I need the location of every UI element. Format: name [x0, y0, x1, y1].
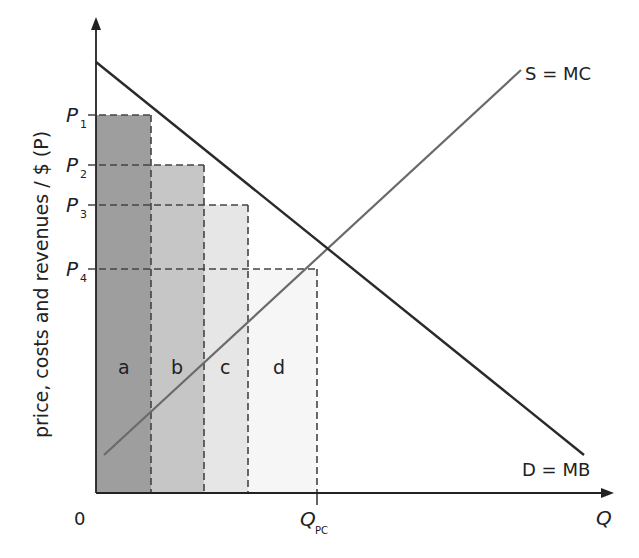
- region-c-label: c: [220, 356, 230, 378]
- price-label-p1: P 1: [66, 103, 87, 131]
- svg-text:2: 2: [80, 168, 87, 181]
- svg-text:4: 4: [80, 272, 87, 285]
- svg-text:PC: PC: [315, 525, 328, 536]
- svg-text:1: 1: [80, 118, 87, 131]
- region-d-label: d: [273, 356, 285, 378]
- region-b: [151, 165, 204, 493]
- y-axis-arrow-icon: [91, 17, 101, 30]
- supply-demand-diagram: price, costs and revenues / $ (P) P 1 P …: [0, 0, 639, 558]
- price-label-p3: P 3: [66, 193, 87, 221]
- region-a-label: a: [118, 356, 130, 378]
- svg-text:3: 3: [80, 208, 87, 221]
- region-d: [248, 269, 317, 493]
- svg-text:P: P: [66, 153, 79, 177]
- svg-text:Q: Q: [300, 507, 316, 531]
- price-label-p2: P 2: [66, 153, 87, 181]
- svg-text:P: P: [66, 103, 79, 127]
- y-axis-label: price, costs and revenues / $ (P): [30, 131, 52, 438]
- svg-text:P: P: [66, 257, 79, 281]
- region-c: [204, 205, 248, 493]
- supply-label: S = MC: [525, 63, 591, 84]
- region-b-label: b: [171, 356, 183, 378]
- qpc-label: Q PC: [300, 507, 328, 536]
- x-axis-label: Q: [596, 506, 612, 530]
- x-axis-arrow-icon: [601, 488, 614, 498]
- svg-text:P: P: [66, 193, 79, 217]
- origin-label: 0: [74, 508, 85, 529]
- demand-label: D = MB: [522, 459, 590, 480]
- price-label-p4: P 4: [66, 257, 87, 285]
